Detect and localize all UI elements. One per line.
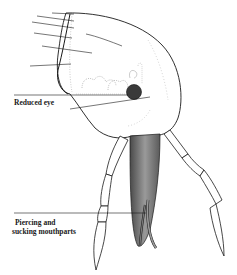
label-reduced-eye: Reduced eye	[14, 99, 54, 108]
label-mouthparts-line2: sucking mouthparts	[12, 228, 76, 237]
mouthparts	[130, 134, 160, 248]
head-capsule	[57, 13, 181, 138]
reduced-eye	[127, 85, 142, 100]
left-appendage	[94, 136, 128, 270]
right-appendage	[164, 130, 224, 256]
